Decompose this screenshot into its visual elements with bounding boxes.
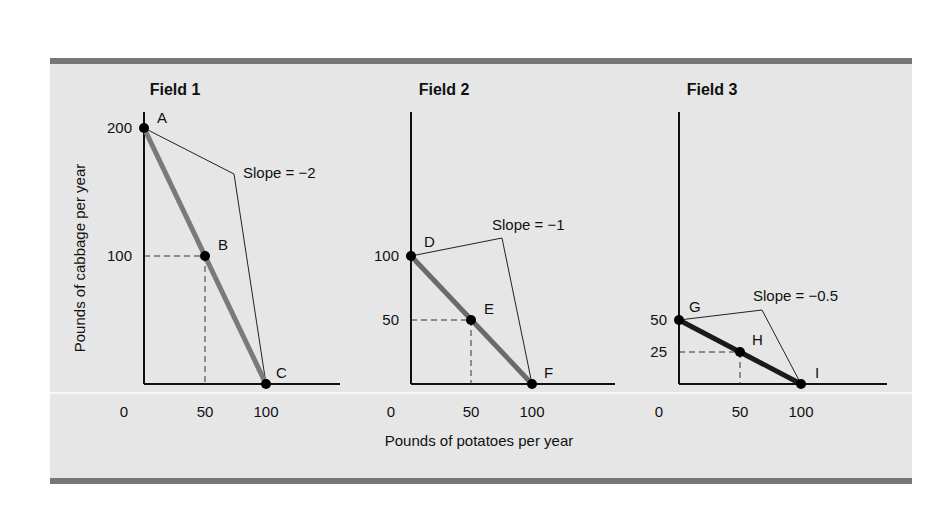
x-tick: 100	[253, 403, 278, 420]
point-i	[796, 379, 806, 389]
x-tick: 100	[788, 403, 813, 420]
y-tick: 50	[650, 311, 667, 328]
x-tick: 100	[519, 403, 544, 420]
point-h	[735, 347, 745, 357]
point-label: A	[157, 109, 167, 126]
panel-title: Field 2	[419, 81, 470, 98]
panel-title: Field 1	[150, 81, 201, 98]
x-tick: 0	[120, 403, 128, 420]
y-tick: 100	[107, 247, 132, 264]
x-tick: 50	[732, 403, 749, 420]
point-label: H	[752, 331, 763, 348]
y-tick: 200	[107, 119, 132, 136]
point-c	[261, 379, 271, 389]
panel-field-2: Field 2 D E F Slope = −1 100 50 0 50 100	[374, 81, 615, 420]
y-axis-label: Pounds of cabbage per year	[71, 164, 88, 352]
y-tick: 25	[650, 343, 667, 360]
point-label: D	[424, 233, 435, 250]
panel-field-1: Field 1 A B C Slope = −2 200 100 0 50 10…	[107, 81, 340, 420]
point-a	[139, 123, 149, 133]
point-d	[406, 251, 416, 261]
x-axis-label: Pounds of potatoes per year	[385, 432, 573, 449]
point-label: B	[218, 236, 228, 253]
point-label: I	[815, 364, 819, 381]
slope-label: Slope = −0.5	[753, 287, 838, 304]
point-f	[527, 379, 537, 389]
point-label: E	[484, 300, 494, 317]
x-tick: 0	[655, 403, 663, 420]
x-tick: 50	[463, 403, 480, 420]
panel-title: Field 3	[687, 81, 738, 98]
point-label: C	[276, 364, 287, 381]
ppf-figure: Field 1 A B C Slope = −2 200 100 0 50 10…	[0, 0, 950, 516]
x-tick: 50	[197, 403, 214, 420]
slope-label: Slope = −2	[243, 164, 316, 181]
point-label: G	[689, 298, 701, 315]
point-g	[674, 315, 684, 325]
point-e	[466, 315, 476, 325]
slope-label: Slope = −1	[492, 216, 565, 233]
panel-field-3: Field 3 G H I Slope = −0.5 50 25 0 50 10…	[650, 81, 887, 420]
x-tick: 0	[387, 403, 395, 420]
point-b	[200, 251, 210, 261]
point-label: F	[544, 364, 553, 381]
y-tick: 50	[382, 311, 399, 328]
y-tick: 100	[374, 247, 399, 264]
